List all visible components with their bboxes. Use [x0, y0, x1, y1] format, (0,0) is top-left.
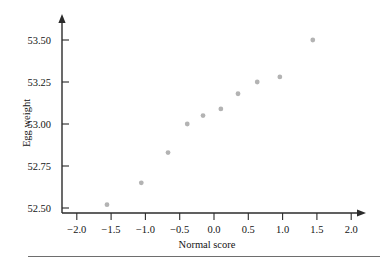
- x-axis-title: Normal score: [179, 239, 236, 250]
- x-tick-label: 0.0: [207, 224, 220, 235]
- normal-probability-plot-figure: 52.5052.7553.0053.2553.50 −2.0−1.5−1.0−0…: [0, 0, 392, 266]
- y-tick-label: 53.50: [27, 35, 51, 46]
- data-point: [201, 113, 206, 118]
- data-point: [185, 122, 190, 127]
- y-tick-label: 52.50: [27, 203, 51, 214]
- x-axis-ticks: [77, 213, 351, 220]
- data-point: [218, 106, 223, 111]
- data-point: [166, 150, 171, 155]
- x-axis-tick-labels: −2.0−1.5−1.0−0.50.00.51.01.52.0: [67, 224, 357, 235]
- x-tick-label: −1.0: [136, 224, 155, 235]
- data-point: [255, 80, 260, 85]
- x-tick-label: 0.5: [242, 224, 255, 235]
- x-tick-label: 1.0: [276, 224, 289, 235]
- x-tick-label: −1.5: [102, 224, 121, 235]
- y-axis-ticks: [62, 40, 69, 208]
- y-axis: [58, 14, 65, 213]
- data-point: [105, 202, 110, 207]
- footer-divider: [28, 256, 380, 257]
- data-point: [310, 38, 315, 43]
- scatter-plot-canvas: 52.5052.7553.0053.2553.50 −2.0−1.5−1.0−0…: [0, 0, 392, 266]
- x-tick-label: −2.0: [67, 224, 86, 235]
- data-points: [105, 38, 316, 207]
- x-tick-label: 2.0: [345, 224, 358, 235]
- data-point: [277, 75, 282, 80]
- x-tick-label: 1.5: [310, 224, 323, 235]
- data-point: [236, 91, 241, 96]
- y-tick-label: 52.75: [27, 161, 51, 172]
- x-tick-label: −0.5: [170, 224, 189, 235]
- y-axis-title: Egg weight: [21, 99, 32, 147]
- y-tick-label: 53.25: [27, 77, 51, 88]
- data-point: [139, 180, 144, 185]
